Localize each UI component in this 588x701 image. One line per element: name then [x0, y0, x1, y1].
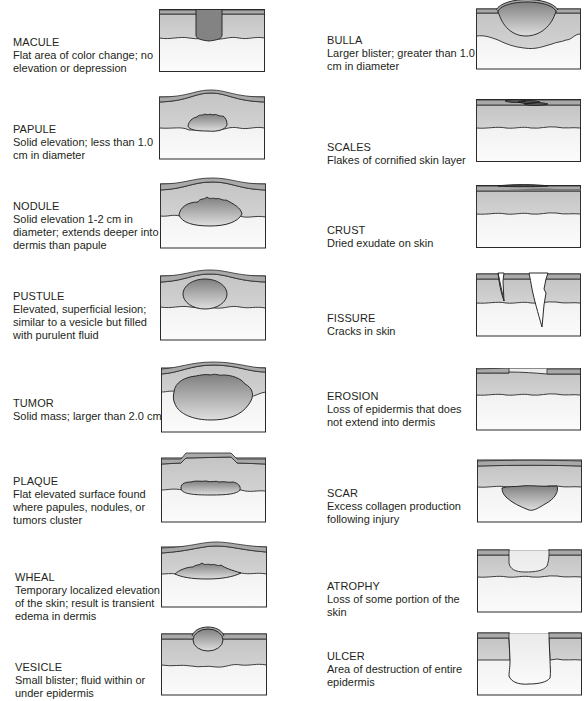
description: Elevated, superficial lesion; similar to…	[13, 303, 163, 342]
description: Solid mass; larger than 2.0 cm	[13, 410, 163, 423]
description: Flat area of color change; no elevation …	[13, 49, 163, 75]
description: Larger blister; greater than 1.0 cm in d…	[327, 47, 477, 73]
bulla-diagram	[476, 0, 582, 70]
wheal-diagram	[161, 542, 267, 608]
description: Small blister; fluid within or under epi…	[15, 674, 165, 700]
term: PUSTULE	[13, 290, 163, 303]
vesicle-diagram	[161, 627, 267, 697]
term: WHEAL	[15, 571, 165, 584]
term: BULLA	[327, 34, 477, 47]
term: SCAR	[327, 487, 477, 500]
bulla-label: BULLA Larger blister; greater than 1.0 c…	[327, 34, 477, 73]
term: PLAQUE	[13, 475, 163, 488]
papule-label: PAPULE Solid elevation; less than 1.0 cm…	[13, 123, 163, 162]
erosion-diagram	[476, 367, 582, 431]
description: Cracks in skin	[327, 325, 477, 338]
description: Area of destruction of entire epidermis	[327, 663, 477, 689]
description: Excess collagen production following inj…	[327, 500, 477, 526]
description: Solid elevation; less than 1.0 cm in dia…	[13, 136, 163, 162]
term: NODULE	[13, 200, 163, 213]
description: Flakes of cornified skin layer	[327, 154, 477, 167]
description: Temporary localized elevation of the ski…	[15, 584, 165, 623]
description: Solid elevation 1-2 cm in diameter; exte…	[13, 213, 163, 252]
wheal-label: WHEAL Temporary localized elevation of t…	[15, 571, 165, 623]
ulcer-label: ULCER Area of destruction of entire epid…	[327, 650, 477, 689]
fissure-label: FISSURE Cracks in skin	[327, 312, 477, 338]
plaque-label: PLAQUE Flat elevated surface found where…	[13, 475, 163, 527]
atrophy-label: ATROPHY Loss of some portion of the skin	[327, 580, 477, 619]
pustule-diagram	[160, 270, 266, 342]
crust-diagram	[476, 185, 582, 249]
term: FISSURE	[327, 312, 477, 325]
macule-label: MACULE Flat area of color change; no ele…	[13, 36, 163, 75]
plaque-diagram	[161, 452, 267, 524]
scar-diagram	[477, 459, 583, 523]
erosion-label: EROSION Loss of epidermis that does not …	[327, 390, 477, 429]
term: MACULE	[13, 36, 163, 49]
term: SCALES	[327, 141, 477, 154]
scar-label: SCAR Excess collagen production followin…	[327, 487, 477, 526]
term: CRUST	[327, 224, 477, 237]
papule-diagram	[159, 90, 265, 160]
term: PAPULE	[13, 123, 163, 136]
description: Loss of epidermis that does not extend i…	[327, 403, 477, 429]
macule-diagram	[159, 9, 265, 72]
tumor-label: TUMOR Solid mass; larger than 2.0 cm	[13, 397, 163, 423]
term: VESICLE	[15, 661, 165, 674]
scales-diagram	[476, 99, 582, 163]
term: TUMOR	[13, 397, 163, 410]
fissure-diagram	[476, 273, 582, 337]
description: Dried exudate on skin	[327, 237, 477, 250]
scales-label: SCALES Flakes of cornified skin layer	[327, 141, 477, 167]
pustule-label: PUSTULE Elevated, superficial lesion; si…	[13, 290, 163, 342]
term: ULCER	[327, 650, 477, 663]
tumor-diagram	[161, 362, 267, 434]
description: Flat elevated surface found where papule…	[13, 488, 163, 527]
crust-label: CRUST Dried exudate on skin	[327, 224, 477, 250]
nodule-label: NODULE Solid elevation 1-2 cm in diamete…	[13, 200, 163, 252]
vesicle-label: VESICLE Small blister; fluid within or u…	[15, 661, 165, 700]
term: ATROPHY	[327, 580, 477, 593]
atrophy-diagram	[477, 549, 583, 613]
term: EROSION	[327, 390, 477, 403]
ulcer-diagram	[477, 632, 583, 696]
description: Loss of some portion of the skin	[327, 593, 477, 619]
nodule-diagram	[160, 178, 266, 250]
